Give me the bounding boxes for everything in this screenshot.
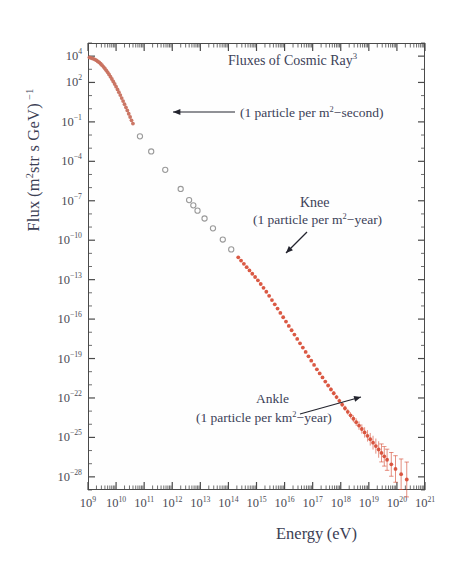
x-tick-label: 1015 <box>246 496 266 511</box>
x-tick-label: 1016 <box>274 496 294 511</box>
x-tick-label: 1014 <box>218 496 238 511</box>
y-tick-label: 10−13 <box>30 272 82 287</box>
y-axis-tick-labels: 10410210−110−410−710−1010−1310−1610−1910… <box>30 0 82 563</box>
cosmic-ray-flux-figure: Flux (m2str s GeV) −1 Energy (eV) 104102… <box>0 0 451 563</box>
x-tick-label: 1012 <box>162 496 182 511</box>
annotation-ankle-label: Ankle <box>256 391 289 407</box>
y-tick-label: 10−19 <box>30 351 82 366</box>
y-tick-label: 10−10 <box>30 233 82 248</box>
annotation-ankle-caption: (1 particle per km2−year) <box>196 410 332 426</box>
annotation-one-per-m2-second: (1 particle per m2−second) <box>240 105 383 121</box>
y-tick-label: 10−22 <box>30 390 82 405</box>
chart-title: Fluxes of Cosmic Ray3 <box>228 53 357 69</box>
x-tick-label: 109 <box>80 496 96 511</box>
x-tick-label: 1021 <box>415 496 435 511</box>
y-tick-label: 10−7 <box>30 193 82 208</box>
x-tick-label: 1013 <box>190 496 210 511</box>
y-tick-label: 10−4 <box>30 154 82 169</box>
annotation-knee-label: Knee <box>300 195 330 211</box>
x-tick-label: 1017 <box>303 496 323 511</box>
y-tick-label: 10−16 <box>30 312 82 327</box>
x-axis-title-text: Energy (eV) <box>276 524 357 543</box>
y-tick-label: 104 <box>30 49 82 64</box>
annotation-knee-caption: (1 particle per m2−year) <box>253 212 382 228</box>
y-tick-label: 10−25 <box>30 430 82 445</box>
y-tick-label: 10−1 <box>30 114 82 129</box>
x-tick-label: 1011 <box>134 496 154 511</box>
x-tick-label: 1020 <box>387 496 407 511</box>
y-tick-label: 10−28 <box>30 469 82 484</box>
x-tick-label: 1010 <box>106 496 126 511</box>
x-tick-label: 1018 <box>331 496 351 511</box>
x-tick-label: 1019 <box>359 496 379 511</box>
x-axis-title: Energy (eV) <box>276 524 357 544</box>
y-tick-label: 102 <box>30 75 82 90</box>
